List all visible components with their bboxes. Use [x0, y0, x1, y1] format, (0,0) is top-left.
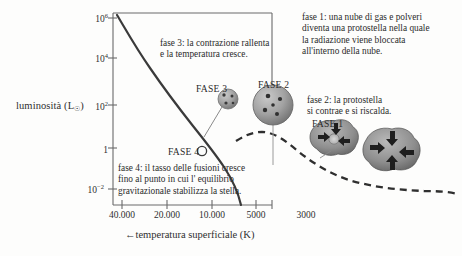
hr-diagram-figure: luminosità (L☉) 106 104 102 1 10−2 40.00…: [0, 0, 462, 256]
phase-label-fase4: FASE 4: [168, 146, 199, 157]
fase2-protostar-sphere: [253, 85, 293, 125]
annotation-fase1: fase 1: una nube di gas e polveri divent…: [302, 12, 430, 58]
fase3-leader-line: [204, 107, 222, 137]
phase-label-fase3: FASE 3: [196, 83, 227, 94]
annotation-fase3: fase 3: la contrazione rallenta e la tem…: [160, 38, 269, 61]
annotation-fase4: fase 4: il tasso delle fusioni cresce fi…: [118, 163, 245, 197]
phase-label-fase1: FASE 1: [312, 118, 343, 129]
phase-label-fase2: FASE 2: [258, 79, 289, 90]
annotation-fase2: fase 2: la protostella si contrae e si r…: [307, 95, 391, 118]
fase1-cloud-right: [363, 128, 420, 171]
